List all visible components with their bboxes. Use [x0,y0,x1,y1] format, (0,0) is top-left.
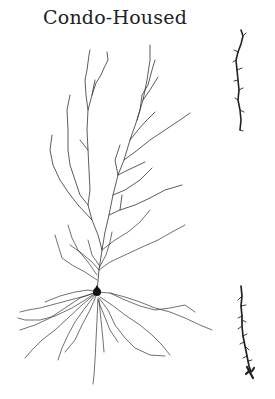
basal-spine-segment [238,286,254,378]
figure: Condo-Housed [0,0,275,399]
basal-tree [18,290,212,384]
apical-spine-segment [233,30,246,131]
oblique-dendrites [55,210,185,280]
neuron-drawing [0,0,275,399]
soma-apex [94,285,100,290]
apical-tree [50,45,190,292]
